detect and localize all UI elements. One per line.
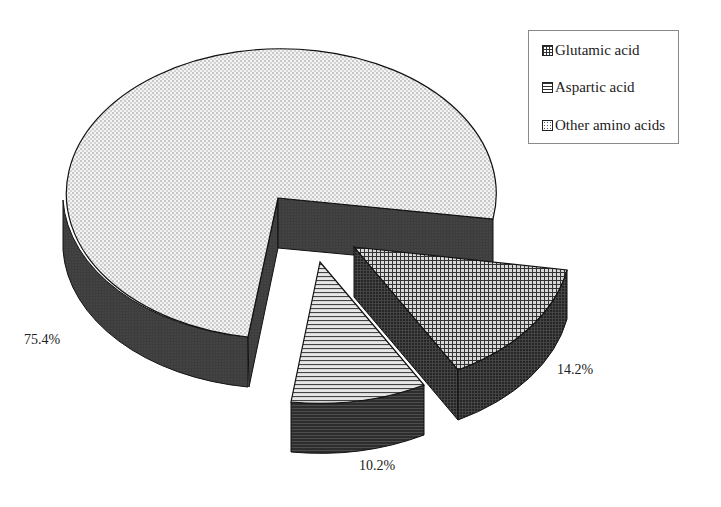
grid-pattern-swatch-icon [542, 45, 553, 56]
legend-label: Aspartic acid [555, 79, 635, 96]
label-aspartic-acid: 10.2% [359, 458, 395, 474]
legend-item-aspartic-acid: Aspartic acid [542, 79, 635, 95]
chart-legend: Glutamic acid Aspartic acid Other amino … [528, 30, 679, 144]
striped-pattern-swatch-icon [542, 82, 553, 93]
label-other-amino-acids: 75.4% [24, 332, 60, 348]
dotted-pattern-swatch-icon [542, 120, 553, 131]
legend-item-other-amino-acids: Other amino acids [542, 117, 665, 133]
legend-label: Glutamic acid [555, 42, 640, 59]
label-glutamic-acid: 14.2% [557, 362, 593, 378]
legend-label: Other amino acids [555, 117, 665, 134]
legend-item-glutamic-acid: Glutamic acid [542, 42, 640, 58]
